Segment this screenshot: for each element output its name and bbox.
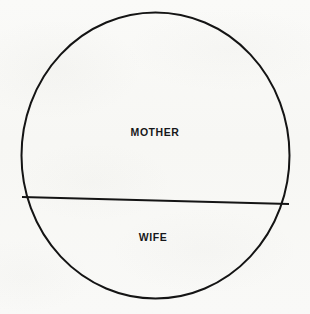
pie-outline [22, 13, 290, 299]
pie-chart-figure: MOTHER WIFE [0, 0, 310, 314]
pie-slice-divider [22, 197, 289, 204]
pie-chart-svg [0, 0, 310, 314]
